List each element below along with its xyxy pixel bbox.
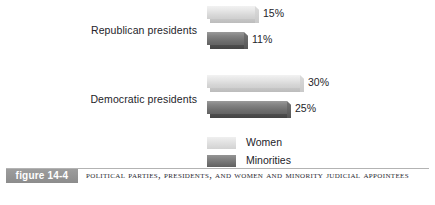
bar-bevel-bottom — [210, 88, 300, 92]
figure-caption-text: Political Parties, Presidents, and Women… — [86, 169, 431, 182]
bar-bevel-bottom — [210, 19, 255, 23]
bar-chart-plot-area: Republican presidents 15% 11% — [0, 0, 435, 132]
bar-bevel-right — [287, 101, 291, 118]
bar-value-republican-minorities: 11% — [252, 33, 272, 45]
bar-shape-democratic-minorities — [207, 101, 287, 118]
bar-bevel-right — [300, 75, 304, 92]
category-label-democratic: Democratic presidents — [0, 93, 197, 105]
bar-shape-democratic-women — [207, 75, 300, 92]
legend-swatch-minorities — [207, 155, 236, 167]
legend-label-women: Women — [246, 136, 282, 148]
category-label-republican: Republican presidents — [0, 24, 197, 36]
bar-bevel-right — [244, 32, 248, 49]
bar-face — [207, 75, 300, 88]
bar-face — [207, 101, 287, 114]
bar-bevel-bottom — [210, 114, 287, 118]
bar-face — [207, 6, 255, 19]
bar-republican-minorities: 11% — [207, 32, 244, 49]
legend-label-minorities: Minorities — [246, 154, 291, 166]
bar-face — [207, 32, 244, 45]
bar-democratic-minorities: 25% — [207, 101, 287, 118]
legend-swatch-women — [207, 137, 236, 149]
figure-container: Republican presidents 15% 11% — [0, 0, 435, 205]
bar-shape-republican-women — [207, 6, 255, 23]
bar-value-democratic-women: 30% — [308, 76, 329, 88]
bar-value-republican-women: 15% — [263, 7, 284, 19]
bar-value-democratic-minorities: 25% — [295, 102, 316, 114]
bar-republican-women: 15% — [207, 6, 255, 23]
figure-number-badge: figure 14-4 — [6, 169, 78, 183]
bar-bevel-right — [255, 6, 259, 23]
bar-bevel-bottom — [210, 45, 244, 49]
bar-shape-republican-minorities — [207, 32, 244, 49]
bar-democratic-women: 30% — [207, 75, 300, 92]
